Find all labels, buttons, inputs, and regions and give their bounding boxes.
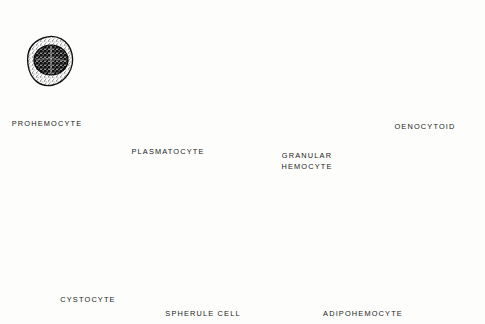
label-granular-hemocyte-line2: HEMOCYTE [281, 161, 332, 172]
label-cystocyte: CYSTOCYTE [60, 295, 115, 304]
hemocyte-figure-plate [0, 0, 485, 324]
label-plasmatocyte: PLASMATOCYTE [131, 147, 204, 156]
label-adipohemocyte-line1: ADIPOHEMOCYTE [323, 309, 403, 318]
label-oenocytoid-line1: OENOCYTOID [394, 122, 455, 131]
label-oenocytoid: OENOCYTOID [394, 122, 455, 131]
label-prohemocyte-line1: PROHEMOCYTE [12, 119, 83, 128]
label-granular-hemocyte-line1: GRANULAR [281, 150, 332, 161]
cell-prohemocyte [20, 28, 84, 94]
prohemocyte-nucleus [34, 45, 68, 75]
label-spherule-cell-line1: SPHERULE CELL [165, 309, 240, 318]
label-plasmatocyte-line1: PLASMATOCYTE [131, 147, 204, 156]
label-granular-hemocyte: GRANULAR HEMOCYTE [281, 150, 332, 172]
label-cystocyte-line1: CYSTOCYTE [60, 295, 115, 304]
label-adipohemocyte: ADIPOHEMOCYTE [323, 309, 403, 318]
label-prohemocyte: PROHEMOCYTE [12, 119, 83, 128]
label-spherule-cell: SPHERULE CELL [165, 309, 240, 318]
